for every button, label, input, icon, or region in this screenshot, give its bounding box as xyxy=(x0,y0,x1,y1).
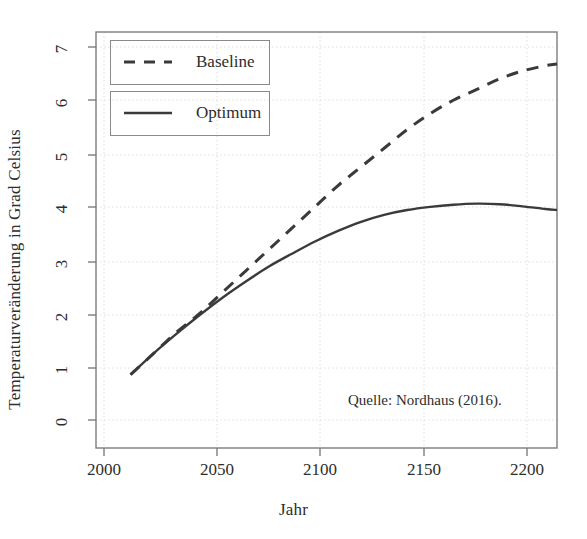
y-tick-label-7: 7 xyxy=(52,39,72,59)
y-axis-ticks xyxy=(88,47,96,420)
y-tick-label-6: 6 xyxy=(52,93,72,113)
x-tick-label-2200: 2200 xyxy=(496,460,558,480)
x-axis-ticks xyxy=(104,448,527,456)
series-line-optimum xyxy=(131,204,557,375)
y-tick-label-2: 2 xyxy=(52,307,72,327)
x-tick-label-2000: 2000 xyxy=(73,460,135,480)
y-tick-label-3: 3 xyxy=(52,254,72,274)
legend-label-optimum: Optimum xyxy=(196,103,261,123)
plot-area xyxy=(0,0,587,539)
legend-label-baseline: Baseline xyxy=(196,52,255,72)
x-tick-label-2100: 2100 xyxy=(289,460,351,480)
y-tick-label-1: 1 xyxy=(52,360,72,380)
y-axis-title: Temperaturveränderung in Grad Celsius xyxy=(0,0,30,539)
x-tick-label-2050: 2050 xyxy=(186,460,248,480)
x-tick-label-2150: 2150 xyxy=(393,460,455,480)
y-tick-label-4: 4 xyxy=(52,199,72,219)
x-axis-title: Jahr xyxy=(0,500,587,520)
y-tick-label-5: 5 xyxy=(52,147,72,167)
chart-figure: Temperaturveränderung in Grad Celsius Ja… xyxy=(0,0,587,539)
y-tick-label-0: 0 xyxy=(52,412,72,432)
source-note: Quelle: Nordhaus (2016). xyxy=(348,392,502,409)
